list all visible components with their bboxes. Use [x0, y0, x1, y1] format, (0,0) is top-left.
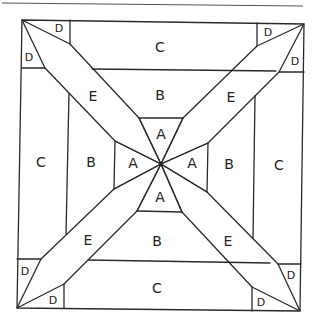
- label-c-top: C: [155, 39, 165, 55]
- label-d-br-bottom: D: [257, 296, 265, 309]
- label-e-top-left: E: [89, 88, 98, 104]
- label-d-tl-left: D: [25, 51, 33, 64]
- divider-right-cb: [253, 96, 255, 238]
- divider-bottom-ab: [137, 211, 182, 212]
- label-d-bl-bottom: D: [49, 294, 57, 307]
- label-a-top: A: [156, 126, 166, 142]
- label-b-bottom: B: [152, 233, 162, 249]
- divider-left-cb: [66, 93, 69, 234]
- label-c-left: C: [36, 154, 46, 170]
- label-a-bottom: A: [155, 189, 165, 205]
- quilt-block-diagram: C C C C B B B B A A A A E E E E D D D D …: [0, 0, 316, 328]
- label-b-right: B: [224, 156, 234, 172]
- label-b-top: B: [155, 87, 165, 103]
- label-e-bottom-right: E: [224, 233, 233, 249]
- label-d-tr-top: D: [264, 26, 272, 39]
- top-rule-line: [2, 3, 303, 6]
- label-a-right: A: [187, 155, 197, 171]
- label-c-bottom: C: [152, 280, 162, 296]
- label-d-br-right: D: [287, 269, 295, 282]
- divider-bottom-cb: [88, 260, 270, 263]
- label-d-tl-top: D: [55, 22, 63, 35]
- label-d-tr-right: D: [291, 55, 299, 68]
- label-d-bl-left: D: [21, 265, 29, 278]
- label-b-left: B: [86, 154, 96, 170]
- label-e-bottom-left: E: [84, 232, 93, 248]
- label-c-right: C: [274, 157, 284, 173]
- divider-right-ab: [207, 143, 208, 192]
- divider-left-ab: [114, 141, 115, 189]
- divider-top-cb: [92, 69, 276, 71]
- label-e-top-right: E: [227, 89, 236, 105]
- label-a-left: A: [128, 155, 138, 171]
